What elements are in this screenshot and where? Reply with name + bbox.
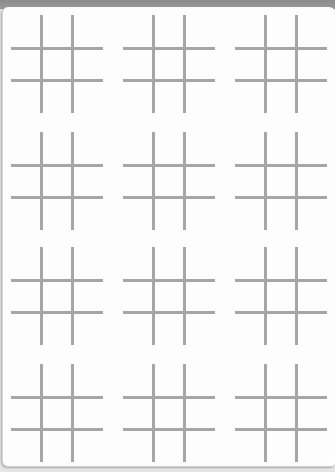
horizontal-grid-line xyxy=(11,396,103,399)
horizontal-grid-line xyxy=(11,279,103,282)
tic-tac-toe-board[interactable] xyxy=(123,364,215,462)
vertical-grid-line xyxy=(71,15,74,113)
tic-tac-toe-board[interactable] xyxy=(235,15,327,113)
horizontal-grid-line xyxy=(11,196,103,199)
horizontal-grid-line xyxy=(123,279,215,282)
game-sheet-card xyxy=(2,7,335,467)
vertical-grid-line xyxy=(152,247,155,345)
horizontal-grid-line xyxy=(123,196,215,199)
tic-tac-toe-board[interactable] xyxy=(11,15,103,113)
horizontal-grid-line xyxy=(123,428,215,431)
tic-tac-toe-board[interactable] xyxy=(123,132,215,230)
horizontal-grid-line xyxy=(235,79,327,82)
vertical-grid-line xyxy=(40,132,43,230)
horizontal-grid-line xyxy=(123,79,215,82)
horizontal-grid-line xyxy=(123,47,215,50)
horizontal-grid-line xyxy=(11,428,103,431)
horizontal-grid-line xyxy=(235,311,327,314)
horizontal-grid-line xyxy=(11,47,103,50)
horizontal-grid-line xyxy=(11,79,103,82)
vertical-grid-line xyxy=(295,247,298,345)
horizontal-grid-line xyxy=(11,311,103,314)
horizontal-grid-line xyxy=(123,396,215,399)
vertical-grid-line xyxy=(152,15,155,113)
tic-tac-toe-board[interactable] xyxy=(235,132,327,230)
vertical-grid-line xyxy=(295,364,298,462)
vertical-grid-line xyxy=(264,364,267,462)
tic-tac-toe-board[interactable] xyxy=(11,364,103,462)
vertical-grid-line xyxy=(40,15,43,113)
horizontal-grid-line xyxy=(235,196,327,199)
tic-tac-toe-board[interactable] xyxy=(123,15,215,113)
vertical-grid-line xyxy=(264,132,267,230)
vertical-grid-line xyxy=(40,247,43,345)
tic-tac-toe-board[interactable] xyxy=(11,132,103,230)
vertical-grid-line xyxy=(295,15,298,113)
horizontal-grid-line xyxy=(123,311,215,314)
vertical-grid-line xyxy=(71,132,74,230)
horizontal-grid-line xyxy=(11,164,103,167)
tic-tac-toe-board[interactable] xyxy=(123,247,215,345)
vertical-grid-line xyxy=(71,247,74,345)
vertical-grid-line xyxy=(295,132,298,230)
vertical-grid-line xyxy=(183,132,186,230)
vertical-grid-line xyxy=(264,15,267,113)
horizontal-grid-line xyxy=(123,164,215,167)
tic-tac-toe-board[interactable] xyxy=(235,364,327,462)
horizontal-grid-line xyxy=(235,428,327,431)
vertical-grid-line xyxy=(183,247,186,345)
tic-tac-toe-board[interactable] xyxy=(11,247,103,345)
vertical-grid-line xyxy=(183,15,186,113)
horizontal-grid-line xyxy=(235,164,327,167)
vertical-grid-line xyxy=(71,364,74,462)
horizontal-grid-line xyxy=(235,279,327,282)
vertical-grid-line xyxy=(40,364,43,462)
vertical-grid-line xyxy=(264,247,267,345)
vertical-grid-line xyxy=(152,364,155,462)
tic-tac-toe-board[interactable] xyxy=(235,247,327,345)
vertical-grid-line xyxy=(183,364,186,462)
horizontal-grid-line xyxy=(235,47,327,50)
horizontal-grid-line xyxy=(235,396,327,399)
vertical-grid-line xyxy=(152,132,155,230)
